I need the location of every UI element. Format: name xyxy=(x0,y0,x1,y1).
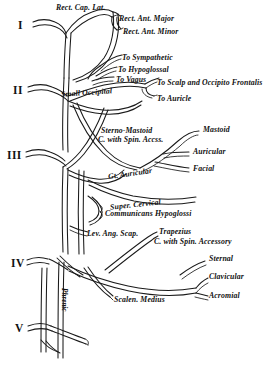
root-numeral-III: III xyxy=(7,149,22,161)
root-numeral-V: V xyxy=(15,322,24,334)
label-rect-ant-minor: Rect. Ant. Minor xyxy=(123,28,178,36)
label-clavicular: Clavicular xyxy=(209,273,244,281)
label-auricular: Auricular xyxy=(193,148,226,156)
label-c-with-spin-accessory: C. with Spin. Accessory xyxy=(154,238,232,246)
label-mastoid: Mastoid xyxy=(203,126,230,134)
label-to-auricle: To Auricle xyxy=(157,95,191,103)
root-1-branches xyxy=(33,10,123,82)
label-to-scalp-and-occipito-frontalis: To Scalp and Occipito Frontalis xyxy=(157,79,262,87)
label-communicans-hypoglossi: Communicans Hypoglossi xyxy=(105,210,191,218)
label-to-hypoglossal: To Hypoglossal xyxy=(118,66,169,74)
label-rect-ant-major: Rect. Ant. Major xyxy=(119,15,174,23)
label-to-vagus: To Vagus xyxy=(116,76,146,84)
cervical-plexus-figure: I II III IV V Rect. Cap. Lat. Rect. Ant.… xyxy=(0,0,275,379)
label-facial: Facial xyxy=(193,165,214,173)
label-phrenic: Phrenic xyxy=(60,288,68,312)
label-acromial: Acromial xyxy=(209,292,240,300)
root-numeral-I: I xyxy=(18,19,23,31)
label-scalen-medius: Scalen. Medius xyxy=(114,296,165,304)
label-lev-ang-scap: Lev. Ang. Scap. xyxy=(87,230,138,238)
label-rect-cap-lat: Rect. Cap. Lat. xyxy=(56,4,105,12)
label-sterno-mastoid: Sterno-Mastoid xyxy=(101,127,152,135)
root-2-branches xyxy=(28,55,159,114)
label-to-sympathetic: To Sympathetic xyxy=(122,54,173,62)
root-numeral-IV: IV xyxy=(11,257,25,269)
root-numeral-II: II xyxy=(13,84,23,96)
label-sternal: Sternal xyxy=(209,255,233,263)
label-trapezius: Trapezius xyxy=(159,228,191,236)
label-c-with-spin-accss: C. with Spin. Accss. xyxy=(98,136,163,144)
